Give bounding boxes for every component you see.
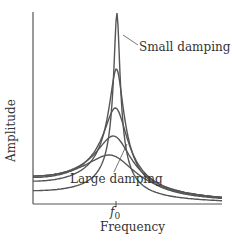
x-axis-label: Frequency — [100, 220, 165, 234]
y-axis-label: Amplitude — [4, 99, 18, 162]
resonance-curve — [33, 136, 222, 197]
f0-label: f0 — [110, 205, 120, 221]
large-damping-leader — [114, 144, 127, 172]
large-damping-label: Large damping — [70, 172, 163, 186]
small-damping-label: Small damping — [139, 40, 230, 54]
small-damping-leader — [123, 35, 138, 45]
